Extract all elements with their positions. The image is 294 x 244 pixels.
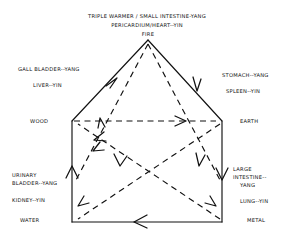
arrow-fire-to-metal-icon: [196, 153, 205, 166]
water-yang-organs-line1-label: URINARY: [12, 172, 37, 179]
earth-element-label: EARTH: [240, 118, 258, 125]
wood-yin-organs-label: LIVER--YIN: [33, 82, 62, 89]
edge-fire-to-earth: [148, 40, 222, 121]
arrow-midright-icon: [205, 196, 216, 206]
pentagon-outline: [72, 40, 222, 222]
generating-cycle-arrowheads: [66, 77, 228, 228]
metal-yang-organs-line3-label: YANG: [240, 182, 255, 189]
dashed-fire-to-water: [76, 44, 148, 180]
arrow-midleft-icon: [78, 196, 89, 206]
arrow-fire-to-earth-icon: [193, 77, 201, 91]
fire-yang-organs-label: TRIPLE WARMER / SMALL INTESTINE-YANG: [0, 13, 294, 20]
five-element-diagram: TRIPLE WARMER / SMALL INTESTINE-YANG PER…: [0, 0, 294, 244]
arrow-earth-to-water-icon: [114, 154, 127, 166]
earth-yin-organs-label: SPLEEN--YIN: [226, 88, 260, 95]
fire-element-label: FIRE: [118, 31, 178, 38]
controlling-cycle: [74, 44, 220, 219]
arrow-metal-to-wood-icon: [93, 142, 104, 151]
metal-element-label: METAL: [247, 217, 265, 224]
water-yin-organs-label: KIDNEY--YIN: [12, 197, 45, 204]
dashed-fire-to-metal: [148, 44, 220, 180]
earth-yang-organs-label: STOMACH--YANG: [222, 72, 269, 79]
wood-element-label: WOOD: [30, 118, 48, 125]
water-yang-organs-line2-label: BLADDER--YANG: [12, 180, 57, 187]
inner-arrow-details: [78, 196, 216, 206]
arrow-water-to-fire-icon: [98, 118, 105, 128]
water-element-label: WATER: [20, 217, 39, 224]
metal-yang-organs-line1-label: LARGE: [233, 166, 252, 173]
fire-yin-organs-label: PERICARDIUM/HEART--YIN: [0, 22, 294, 29]
controlling-cycle-arrowheads: [93, 116, 205, 166]
metal-yin-organs-label: LUNG--YIN: [240, 198, 268, 205]
wood-yang-organs-label: GALL BLADDER--YANG: [18, 66, 80, 73]
edge-wood-to-fire: [72, 40, 148, 121]
metal-yang-organs-line2-label: INTESTINE--: [233, 174, 267, 181]
